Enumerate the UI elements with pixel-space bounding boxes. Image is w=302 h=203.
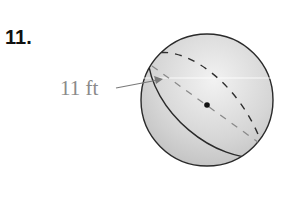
sphere-figure bbox=[0, 0, 302, 203]
dimension-label: 11 ft bbox=[60, 76, 98, 101]
center-dot bbox=[204, 102, 210, 108]
sphere-body bbox=[141, 34, 273, 166]
